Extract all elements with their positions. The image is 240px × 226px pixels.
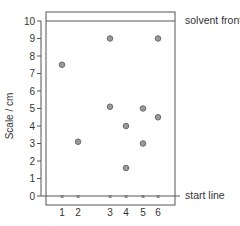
origin-mark: × <box>141 193 145 200</box>
y-tick-label: 0 <box>29 191 35 202</box>
lane-label: 2 <box>75 207 81 218</box>
y-axis-label: Scale / cm <box>4 93 15 140</box>
lane-label: 1 <box>59 207 65 218</box>
y-tick-label: 4 <box>29 121 35 132</box>
spot <box>155 114 161 120</box>
spot <box>75 139 81 145</box>
origin-mark: × <box>108 193 112 200</box>
y-tick-label: 3 <box>29 138 35 149</box>
y-tick-label: 6 <box>29 86 35 97</box>
y-tick-label: 2 <box>29 156 35 167</box>
spot <box>107 104 113 110</box>
y-tick-label: 5 <box>29 103 35 114</box>
spot <box>140 141 146 147</box>
lane-label: 5 <box>140 207 146 218</box>
start-line-label: start line <box>185 189 225 201</box>
y-tick-label: 1 <box>29 173 35 184</box>
lane-label: 3 <box>107 207 113 218</box>
spot <box>155 36 161 42</box>
spot <box>59 62 65 68</box>
origin-mark: × <box>124 193 128 200</box>
chromatogram-diagram: 012345678910 ×1×2×3×4×5×6 solvent front … <box>0 0 240 226</box>
spot <box>123 165 129 171</box>
y-tick-label: 9 <box>29 33 35 44</box>
lane-label: 6 <box>155 207 161 218</box>
spots <box>59 36 161 171</box>
origin-mark: × <box>76 193 80 200</box>
y-ticks: 012345678910 <box>24 16 41 202</box>
y-tick-label: 10 <box>24 16 36 27</box>
lane-label: 4 <box>123 207 129 218</box>
y-tick-label: 8 <box>29 51 35 62</box>
spot <box>140 106 146 112</box>
spot <box>107 36 113 42</box>
origin-mark: × <box>156 193 160 200</box>
spot <box>123 123 129 129</box>
solvent-front-label: solvent front <box>185 14 240 26</box>
origin-mark: × <box>60 193 64 200</box>
y-tick-label: 7 <box>29 68 35 79</box>
